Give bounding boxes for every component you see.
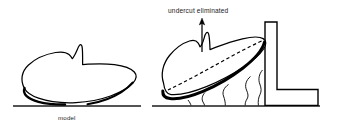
support-column-2 bbox=[202, 93, 205, 106]
label-undercut-eliminated: undercut eliminated bbox=[168, 8, 228, 15]
l-shaped-wall bbox=[265, 22, 318, 105]
label-model: model bbox=[58, 115, 76, 121]
support-column-1 bbox=[188, 100, 191, 105]
support-column-5 bbox=[258, 70, 262, 105]
figure-container: model undercut eliminated bbox=[0, 0, 344, 131]
left-panel-group bbox=[13, 45, 141, 106]
technical-illustration bbox=[0, 0, 344, 131]
support-column-3 bbox=[223, 85, 228, 106]
right-panel-group bbox=[152, 18, 320, 106]
support-column-4 bbox=[245, 77, 250, 106]
